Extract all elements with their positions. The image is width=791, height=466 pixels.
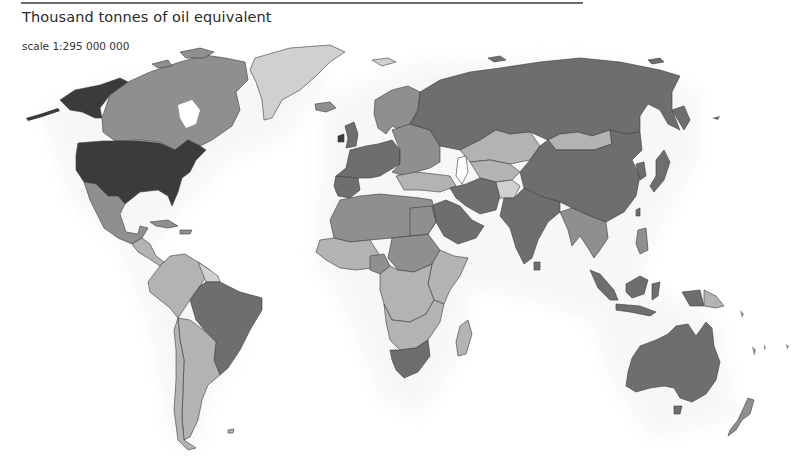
region-kamchatka-tip <box>712 116 720 120</box>
falkland-islands <box>228 429 234 433</box>
region-sri-lanka[interactable] <box>534 262 540 270</box>
region-papua-new-guinea[interactable] <box>704 290 724 308</box>
pacific-islands <box>740 310 789 356</box>
world-map <box>0 0 791 466</box>
